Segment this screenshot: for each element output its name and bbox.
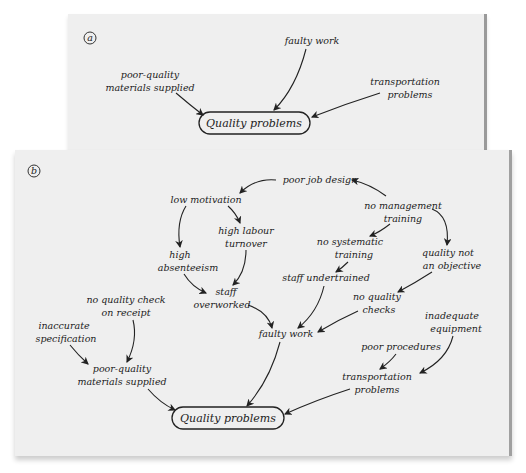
b-node-poor-procedures: poor procedures (361, 341, 441, 352)
b-node-overworked-l2: overworked (193, 299, 250, 310)
b-node-poor-job-design: poor job design (283, 174, 358, 185)
a-node-transport-l2: problems (388, 89, 433, 100)
b-node-materials-l2: materials supplied (77, 376, 166, 387)
a-node-faulty-work: faulty work (284, 35, 340, 46)
b-node-labour-l2: turnover (225, 238, 268, 249)
panel-a-badge-label: a (87, 32, 93, 43)
b-node-inaccurate-l2: specification (36, 333, 97, 344)
b-node-no-mgmt-training-l2: training (384, 213, 422, 224)
b-arrow-qualityobj-checks (398, 272, 432, 292)
b-arrow-receipt-materials (127, 320, 135, 362)
a-arrow-faulty (274, 49, 306, 110)
b-node-transport-l2: problems (355, 384, 400, 395)
a-center-label: Quality problems (206, 117, 302, 130)
panel-b-badge-label: b (31, 165, 37, 176)
b-node-absenteeism-l2: absenteeism (158, 262, 218, 273)
panel-a: a faulty work poor-quality materials sup… (84, 32, 440, 134)
b-arrow-overworked-faulty (248, 305, 272, 328)
cause-effect-diagram: a faulty work poor-quality materials sup… (0, 0, 526, 473)
b-arrow-procedures-transport (380, 354, 396, 369)
b-arrow-materials-quality (148, 389, 175, 410)
b-node-no-checks-l1: no quality (353, 291, 402, 302)
a-node-poor-quality-l2: materials supplied (105, 82, 194, 93)
panel-b: b poor job design low motivation no mana… (28, 165, 482, 429)
b-node-inaccurate-l1: inaccurate (38, 320, 90, 331)
b-node-overworked-l1: staff (215, 286, 238, 297)
b-arrow-mgmt-qualityobj (432, 209, 447, 245)
b-arrow-motivation-turnover (228, 206, 240, 223)
b-node-transport-l1: transportation (342, 371, 412, 382)
b-arrow-absenteeism-overworked (184, 274, 206, 293)
b-arrow-faulty-quality (247, 342, 280, 406)
a-node-poor-quality-l1: poor-quality (121, 69, 180, 80)
b-node-quality-obj-l1: quality not (422, 247, 474, 258)
b-arrow-checks-faulty (318, 311, 358, 332)
b-arrow-motivation-absenteeism (179, 206, 186, 247)
b-node-low-motivation: low motivation (170, 194, 241, 205)
b-node-faulty-work: faulty work (258, 328, 314, 339)
b-node-no-mgmt-training-l1: no management (364, 200, 442, 211)
b-node-no-checks-l2: checks (362, 304, 395, 315)
a-arrow-transport (312, 93, 380, 117)
b-node-equipment-l1: inadequate (425, 310, 479, 321)
b-arrow-transport-quality (285, 389, 350, 414)
b-arrow-mgmt-systematic (370, 224, 390, 236)
b-center-label: Quality problems (180, 412, 276, 425)
b-arrow-turnover-overworked (233, 250, 246, 285)
a-arrow-materials (176, 93, 203, 115)
b-node-undertrained: staff undertrained (282, 272, 369, 283)
a-node-transport-l1: transportation (370, 76, 440, 87)
b-arrow-undertrained-faulty (298, 286, 324, 328)
b-node-materials-l1: poor-quality (93, 363, 152, 374)
b-node-labour-l1: high labour (218, 225, 275, 236)
b-arrow-jobdesign-motivation (240, 180, 276, 193)
b-node-systematic-l1: no systematic (317, 236, 384, 247)
b-node-absenteeism-l1: high (169, 249, 190, 260)
b-node-receipt-l1: no quality check (86, 294, 165, 305)
b-node-quality-obj-l2: an objective (423, 260, 482, 271)
b-arrow-inaccurate-materials (70, 345, 88, 364)
b-node-equipment-l2: equipment (430, 323, 482, 334)
b-node-systematic-l2: training (335, 249, 373, 260)
b-arrow-systematic-undertrained (336, 262, 348, 272)
b-node-receipt-l2: on receipt (102, 307, 151, 318)
